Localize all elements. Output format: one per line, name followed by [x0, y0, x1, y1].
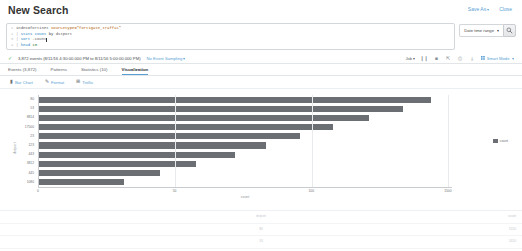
bar-row: [39, 151, 452, 158]
job-status-right: Job▾ ❙❙ ■ ⇱ ⎙ ⤓ Smart Mode▾: [405, 55, 514, 61]
job-label: Job: [405, 56, 412, 61]
chart-legend[interactable]: count: [493, 139, 508, 143]
time-range-group: Date time range ▾: [459, 24, 516, 37]
run-search-button[interactable]: [503, 24, 516, 37]
format-label: Format: [51, 80, 64, 85]
bar[interactable]: [39, 97, 431, 103]
x-axis-tick-label: 1500: [444, 189, 451, 193]
text-cursor: [46, 38, 47, 42]
search-mode-label: Smart Mode: [487, 56, 510, 61]
preview-cell: dstport: [256, 214, 266, 218]
bar-row: [39, 170, 452, 177]
tab-statistics[interactable]: Statistics (10): [81, 67, 108, 76]
spl-token: head: [21, 43, 33, 49]
top-bar-actions: Save As▾ Close: [468, 4, 516, 12]
export-icon[interactable]: ⤓: [469, 55, 475, 61]
bar-row: [39, 114, 452, 121]
bar-row: [39, 124, 452, 131]
legend-label: count: [500, 139, 508, 143]
bar[interactable]: [39, 115, 369, 121]
y-axis-tick-label: 80: [16, 96, 36, 103]
x-axis-tick-label: 100: [308, 189, 314, 193]
close-button[interactable]: Close: [499, 6, 512, 12]
line-number: 4: [9, 43, 16, 49]
spl-token: by: [49, 32, 56, 38]
visualization-panel: dstport 80538814175002312344338124451080…: [0, 89, 522, 201]
trellis-label: Trellis: [82, 80, 93, 85]
bar-series: [38, 95, 452, 187]
event-count-label: 3,872 events (8/11/16 4:30:00.000 PM to …: [18, 56, 141, 61]
search-icon: [506, 27, 513, 34]
trellis-icon: ⊞: [76, 80, 80, 85]
search-mode-dropdown[interactable]: Smart Mode▾: [481, 56, 514, 61]
time-range-picker[interactable]: Date time range ▾: [459, 24, 503, 37]
y-axis-tick-label: 3812: [16, 160, 36, 167]
bar-row: [39, 179, 452, 186]
preview-cell: 53: [259, 239, 263, 243]
bar-chart-icon: ▮: [10, 80, 13, 85]
grid-line: [175, 95, 176, 187]
event-sampling-label: No Event Sampling: [147, 56, 183, 61]
spl-line: 4 | head 10: [9, 43, 451, 49]
y-axis-tick-label: 445: [16, 170, 36, 177]
x-axis-line: [38, 187, 452, 188]
legend-swatch: [493, 139, 498, 143]
chart-type-label: Bar Chart: [15, 80, 33, 85]
chart-toolbar: ▮ Bar Chart ✎ Format ⊞ Trellis: [0, 76, 522, 89]
y-axis-ticks: 80538814175002312344338124451080: [16, 95, 36, 187]
grid-line: [312, 95, 313, 187]
bar[interactable]: [39, 106, 403, 112]
preview-row: dstport count: [0, 211, 522, 224]
preview-cell: count: [508, 214, 516, 218]
bar[interactable]: [39, 179, 124, 185]
chart-type-button[interactable]: ▮ Bar Chart: [10, 80, 33, 85]
bar-row: [39, 160, 452, 167]
preview-row: 80 1520: [0, 224, 522, 237]
x-axis-tick-label: 0: [37, 189, 39, 193]
pause-icon[interactable]: ❙❙: [421, 55, 427, 61]
tab-patterns[interactable]: Patterns: [51, 67, 67, 76]
y-axis-tick-label: 443: [16, 151, 36, 158]
bar-row: [39, 105, 452, 112]
grid-line: [448, 95, 449, 187]
preview-cell: 1520: [509, 227, 516, 231]
tab-events[interactable]: Events (3,872): [8, 67, 37, 76]
x-axis-title: count: [38, 195, 452, 199]
save-as-label: Save As: [468, 6, 486, 12]
result-tabs: Events (3,872) Patterns Statistics (10) …: [0, 64, 522, 76]
trellis-button[interactable]: ⊞ Trellis: [76, 80, 93, 85]
chevron-down-icon: ▾: [413, 56, 415, 61]
x-axis-tick-label: 50: [173, 189, 177, 193]
page-title: New Search: [6, 4, 69, 16]
preview-cell: 80: [259, 227, 263, 231]
y-axis-tick-label: 1080: [16, 179, 36, 186]
spl-token: 10: [32, 43, 37, 49]
bar[interactable]: [39, 152, 235, 158]
preview-row: 53 1410: [0, 236, 522, 249]
y-axis-tick-label: 23: [16, 133, 36, 140]
bar[interactable]: [39, 170, 160, 176]
bar-chart[interactable]: dstport 80538814175002312344338124451080…: [10, 95, 512, 201]
preview-cell: 1410: [509, 239, 516, 243]
bar-row: [39, 133, 452, 140]
y-axis-tick-label: 123: [16, 142, 36, 149]
stop-icon[interactable]: ■: [433, 55, 439, 61]
print-icon[interactable]: ⎙: [457, 55, 463, 61]
event-sampling-dropdown[interactable]: No Event Sampling▾: [147, 56, 186, 61]
bar-row: [39, 142, 452, 149]
share-icon[interactable]: ⇱: [445, 55, 451, 61]
time-range-label: Date time range: [464, 28, 494, 33]
job-status-left: ✓ 3,872 events (8/11/16 4:30:00.000 PM t…: [8, 56, 185, 61]
format-button[interactable]: ✎ Format: [45, 80, 64, 85]
bar[interactable]: [39, 133, 300, 139]
check-icon: ✓: [8, 56, 12, 61]
bar[interactable]: [39, 142, 266, 148]
spl-query-input[interactable]: 1 index=fortinet sourcetype="fortigate_t…: [6, 23, 455, 50]
y-axis-tick-label: 8814: [16, 114, 36, 121]
bar[interactable]: [39, 161, 196, 167]
tab-visualization[interactable]: Visualization: [122, 67, 149, 76]
save-as-button[interactable]: Save As▾: [468, 6, 489, 12]
y-axis-tick-label: 53: [16, 105, 36, 112]
bar[interactable]: [39, 124, 333, 130]
job-menu-button[interactable]: Job▾: [405, 56, 415, 61]
